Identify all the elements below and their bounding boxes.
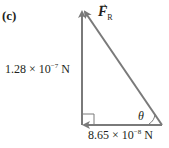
angle-arc	[149, 114, 155, 124]
resultant-label: →FR	[98, 4, 113, 22]
part-label: (c)	[2, 8, 16, 24]
horizontal-vector-label: 8.65 × 10−8 N	[88, 128, 153, 143]
angle-theta-label: θ	[138, 109, 144, 124]
resultant-vector-arrow	[85, 12, 162, 125]
vector-arrow-icon: →	[98, 0, 108, 9]
vertical-vector-label: 1.28 × 10−7 N	[5, 62, 70, 77]
right-angle-marker	[83, 114, 94, 124]
